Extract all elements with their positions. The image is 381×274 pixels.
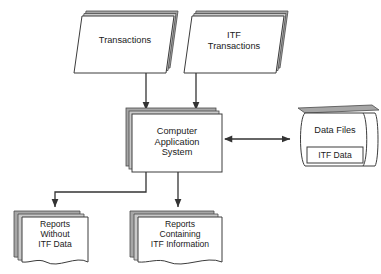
node-transactions[interactable] [74,11,178,73]
itf-transactions-face [184,16,284,73]
reports-containing-face [138,217,222,264]
node-data-files[interactable] [298,105,379,166]
reports-without-face [22,217,88,264]
edge-application-to-reports-without [55,172,146,207]
diagram-canvas: Transactions ITF Transactions Computer A… [0,0,381,274]
node-itf-transactions[interactable] [184,11,288,73]
data-files-shadow-top [298,105,379,113]
node-reports-containing-itf-information[interactable] [130,211,222,264]
node-computer-application-system[interactable] [126,108,222,172]
itf-data-box [307,147,363,163]
node-reports-without-itf-data[interactable] [14,211,88,264]
diagram-graphics [0,0,381,274]
application-face [132,114,222,172]
transactions-face [74,16,174,73]
